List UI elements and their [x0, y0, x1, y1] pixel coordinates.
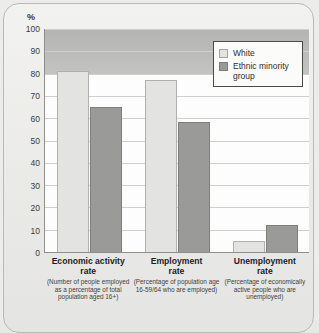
category-label: Employmentrate(Percentage of population …	[132, 256, 220, 301]
legend-item-white: White	[219, 48, 295, 58]
category-label: Unemploymentrate(Percentage of economica…	[221, 256, 309, 301]
y-axis-tick-label: 40	[0, 158, 40, 168]
bar	[145, 80, 177, 252]
y-axis-tick-label: 80	[0, 69, 40, 79]
bar-group	[45, 29, 133, 252]
y-axis-tick-label: 70	[0, 91, 40, 101]
bar	[90, 107, 122, 252]
y-axis-tick-label: 0	[0, 248, 40, 258]
category-title-second-line: rate	[133, 266, 219, 276]
category-title-second-line: rate	[222, 266, 308, 276]
category-title: Unemployment	[222, 256, 308, 266]
bar-group	[133, 29, 221, 252]
category-description: (Percentage of economically active peopl…	[222, 278, 308, 301]
category-title: Economic activity	[45, 256, 131, 266]
bar	[266, 225, 298, 252]
bar	[178, 122, 210, 252]
y-axis-tick-label: 100	[0, 24, 40, 34]
y-axis-tick-label: 30	[0, 181, 40, 191]
category-description: (Percentage of population age 16-59/64 w…	[133, 278, 219, 293]
legend-swatch-minority-icon	[219, 62, 228, 71]
category-description: (Number of people employed as a percenta…	[45, 278, 131, 301]
legend-label-white: White	[233, 48, 255, 58]
chart-legend: White Ethnic minority group	[213, 41, 303, 87]
category-title: Employment	[133, 256, 219, 266]
y-axis-tick-label: 10	[0, 226, 40, 236]
category-label: Economic activityrate(Number of people e…	[44, 256, 132, 301]
y-axis-tick-label: 90	[0, 46, 40, 56]
legend-label-ethnic-minority-group: Ethnic minority group	[233, 61, 295, 81]
category-title-second-line: rate	[45, 266, 131, 276]
y-axis-tick-label: 20	[0, 203, 40, 213]
legend-item-ethnic-minority-group: Ethnic minority group	[219, 61, 295, 81]
y-axis-tick-label: 50	[0, 136, 40, 146]
y-axis-unit-label: %	[27, 12, 35, 22]
y-axis-tick-label: 60	[0, 114, 40, 124]
bar	[233, 241, 265, 252]
category-labels: Economic activityrate(Number of people e…	[44, 256, 309, 301]
legend-swatch-white-icon	[219, 49, 228, 58]
bar	[57, 71, 89, 252]
